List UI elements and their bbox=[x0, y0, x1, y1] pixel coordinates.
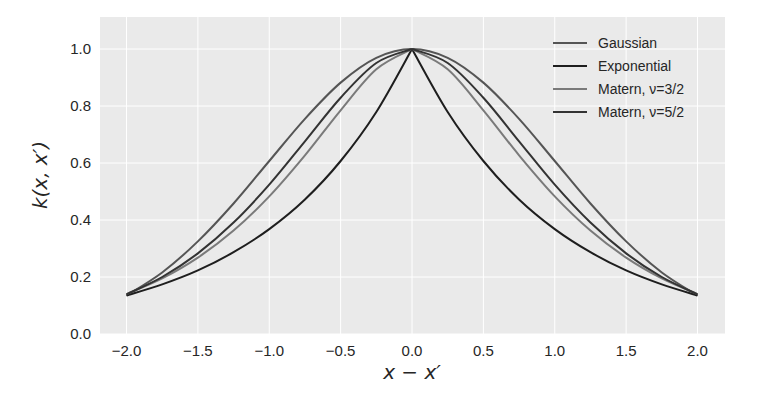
y-tick-label: 1.0 bbox=[70, 40, 91, 57]
x-tick-label: −2.0 bbox=[112, 342, 142, 359]
x-axis-label: x − x′ bbox=[382, 360, 441, 384]
x-tick-label: 0.0 bbox=[402, 342, 423, 359]
x-tick-label: −1.5 bbox=[183, 342, 213, 359]
legend-label: Gaussian bbox=[598, 35, 657, 51]
y-tick-label: 0.4 bbox=[70, 211, 91, 228]
y-axis-label: k(x, x′) bbox=[28, 141, 52, 209]
x-tick-label: −0.5 bbox=[326, 342, 356, 359]
x-axis-ticks: −2.0−1.5−1.0−0.50.00.51.01.52.0 bbox=[112, 342, 708, 359]
legend-label: Exponential bbox=[598, 58, 671, 74]
y-tick-label: 0.8 bbox=[70, 97, 91, 114]
x-tick-label: 1.0 bbox=[544, 342, 565, 359]
y-axis-ticks: 0.00.20.40.60.81.0 bbox=[70, 40, 91, 342]
x-tick-label: 2.0 bbox=[687, 342, 708, 359]
y-tick-label: 0.0 bbox=[70, 325, 91, 342]
x-tick-label: −1.0 bbox=[254, 342, 284, 359]
kernel-chart: −2.0−1.5−1.0−0.50.00.51.01.52.0 0.00.20.… bbox=[0, 0, 761, 398]
x-tick-label: 1.5 bbox=[616, 342, 637, 359]
x-tick-label: 0.5 bbox=[473, 342, 494, 359]
legend-label: Matern, ν=5/2 bbox=[598, 104, 684, 120]
y-tick-label: 0.6 bbox=[70, 154, 91, 171]
y-tick-label: 0.2 bbox=[70, 268, 91, 285]
legend-label: Matern, ν=3/2 bbox=[598, 81, 684, 97]
